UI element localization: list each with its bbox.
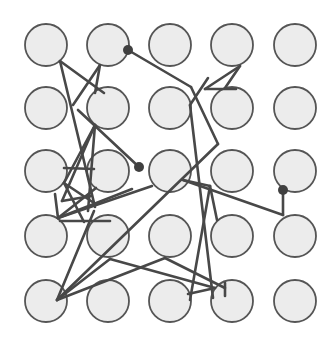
node-r3-c4	[211, 150, 253, 192]
node-r5-c5	[274, 280, 316, 322]
node-r2-c3	[149, 87, 191, 129]
node-r1-c4	[211, 24, 253, 66]
node-r4-c4	[211, 215, 253, 257]
node-r3-c5	[274, 150, 316, 192]
node-r1-c3	[149, 24, 191, 66]
node-r2-c1	[25, 87, 67, 129]
node-r1-c2	[87, 24, 129, 66]
edge-21	[55, 194, 58, 218]
node-r4-c5	[274, 215, 316, 257]
edge-9	[205, 66, 240, 89]
node-r1-c1	[25, 24, 67, 66]
edge-17	[64, 168, 94, 169]
node-r2-c5	[274, 87, 316, 129]
node-r3-c1	[25, 150, 67, 192]
network-diagram	[0, 0, 334, 344]
node-r1-c5	[274, 24, 316, 66]
endpoint-dot-2	[134, 162, 144, 172]
diagram-canvas	[0, 0, 334, 344]
node-r3-c3	[149, 150, 191, 192]
endpoint-dot-3	[278, 185, 288, 195]
edge-10	[225, 66, 240, 88]
node-r4-c3	[149, 215, 191, 257]
node-r5-c4	[211, 280, 253, 322]
edge-12	[190, 105, 213, 298]
endpoint-dot-1	[123, 45, 133, 55]
node-r2-c4	[211, 87, 253, 129]
node-r5-c1	[25, 280, 67, 322]
node-r5-c3	[149, 280, 191, 322]
